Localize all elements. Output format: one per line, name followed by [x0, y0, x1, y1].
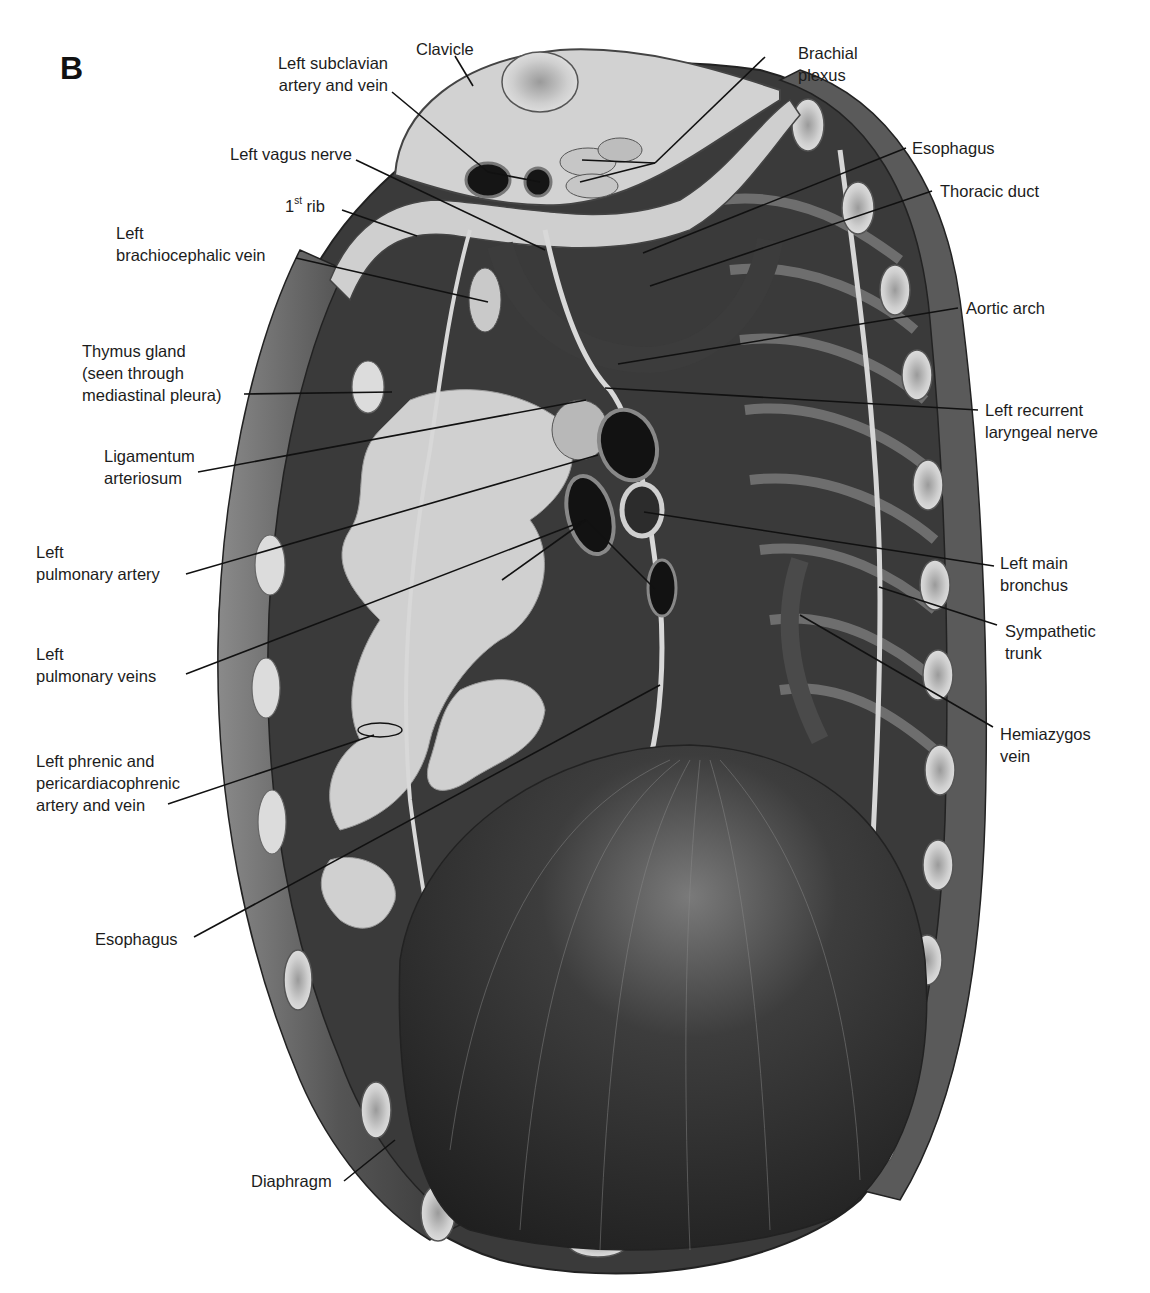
label-left-subclavian: Left subclavian artery and vein — [248, 52, 388, 96]
label-left-pulmonary-artery: Left pulmonary artery — [36, 541, 160, 585]
label-aortic-arch: Aortic arch — [966, 297, 1045, 319]
label-left-pulmonary-veins: Left pulmonary veins — [36, 643, 156, 687]
label-ligamentum-arteriosum: Ligamentum arteriosum — [104, 445, 195, 489]
label-left-main-bronchus: Left main bronchus — [1000, 552, 1068, 596]
label-clavicle: Clavicle — [416, 38, 474, 60]
label-left-brachiocephalic: Left brachiocephalic vein — [116, 222, 266, 266]
label-esophagus-top: Esophagus — [912, 137, 995, 159]
anatomy-figure: B ClavicleLeft subclavian artery and vei… — [0, 0, 1150, 1293]
label-left-recurrent-laryngeal: Left recurrent laryngeal nerve — [985, 399, 1098, 443]
label-sympathetic-trunk: Sympathetic trunk — [1005, 620, 1096, 664]
panel-letter: B — [60, 52, 83, 84]
label-esophagus-bottom: Esophagus — [95, 928, 178, 950]
label-left-phrenic: Left phrenic and pericardiacophrenic art… — [36, 750, 180, 816]
label-thoracic-duct: Thoracic duct — [940, 180, 1039, 202]
label-brachial-plexus: Brachial plexus — [798, 42, 858, 86]
label-first-rib: 1st rib — [285, 195, 325, 217]
label-hemiazygos: Hemiazygos vein — [1000, 723, 1091, 767]
brachiocephalic-vein-structure — [469, 268, 501, 332]
label-left-vagus: Left vagus nerve — [212, 143, 352, 165]
label-diaphragm: Diaphragm — [251, 1170, 332, 1192]
label-thymus: Thymus gland (seen through mediastinal p… — [82, 340, 221, 406]
